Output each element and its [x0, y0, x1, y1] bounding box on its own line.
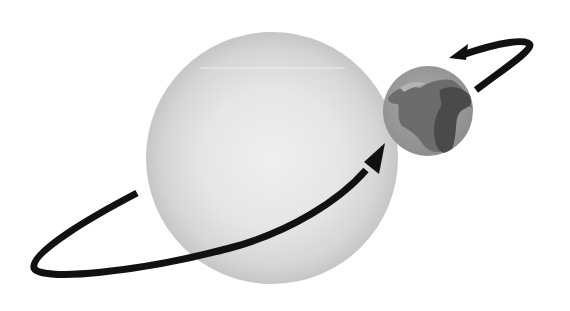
- diagram-canvas: [0, 0, 570, 311]
- orbit-diagram: [0, 0, 570, 311]
- arrowhead-left-icon: [449, 44, 468, 60]
- earth: [383, 66, 473, 156]
- sun: [146, 32, 398, 284]
